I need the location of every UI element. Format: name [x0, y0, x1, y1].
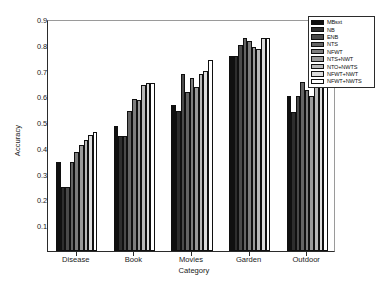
y-tick-label: 0.5	[7, 119, 47, 128]
legend-swatch	[311, 64, 324, 69]
x-axis-label: Category	[0, 266, 388, 275]
y-tick-label: 0.2	[7, 196, 47, 205]
legend-item: NFWT+NWT	[311, 70, 372, 77]
legend-swatch	[311, 20, 324, 25]
legend-item: NTS	[311, 41, 372, 48]
y-tick-label: 0.4	[7, 144, 47, 153]
legend-item: NFWT	[311, 48, 372, 55]
legend-item: ENB	[311, 33, 372, 40]
x-tick-label-outdoor: Outdoor	[271, 255, 341, 264]
y-tick-label: 0.9	[7, 16, 47, 25]
bar	[93, 132, 98, 251]
legend-label: ENB	[327, 34, 338, 40]
legend-item: MBsxt	[311, 19, 372, 26]
y-tick-label: 0.3	[7, 170, 47, 179]
legend-label: NFWT+NWT	[327, 71, 358, 77]
y-tick-label: 0.1	[7, 222, 47, 231]
bar-group-disease	[56, 21, 97, 251]
legend-item: NB	[311, 26, 372, 33]
bar-group-book	[114, 21, 155, 251]
y-axis-label: Accuracy	[13, 106, 22, 176]
legend-item: NTO+NWTS	[311, 63, 372, 70]
bar-group-garden	[229, 21, 270, 251]
legend-label: NTO+NWTS	[327, 64, 357, 70]
legend-label: NTS+NWT	[327, 56, 353, 62]
legend-label: NFWT	[327, 49, 343, 55]
bars-layer	[48, 21, 334, 251]
bar	[266, 38, 271, 251]
legend-swatch	[311, 79, 324, 84]
bar	[150, 83, 155, 251]
legend-label: NB	[327, 27, 334, 33]
bar-chart-figure: Accuracy 0.10.20.30.40.50.60.70.80.9 Dis…	[0, 0, 388, 292]
bar	[208, 60, 213, 251]
legend-swatch	[311, 49, 324, 54]
legend-label: NTS	[327, 41, 338, 47]
y-tick-label: 0.7	[7, 67, 47, 76]
legend-swatch	[311, 71, 324, 76]
bar-group-movies	[171, 21, 212, 251]
plot-area	[47, 20, 335, 252]
legend-label: NFWT+NWTS	[327, 78, 362, 84]
bar	[323, 65, 328, 251]
legend-swatch	[311, 27, 324, 32]
legend: MBsxtNBENBNTSNFWTNTS+NWTNTO+NWTSNFWT+NWT…	[308, 16, 375, 88]
legend-item: NTS+NWT	[311, 56, 372, 63]
legend-swatch	[311, 34, 324, 39]
legend-item: NFWT+NWTS	[311, 78, 372, 85]
legend-swatch	[311, 42, 324, 47]
y-tick-label: 0.8	[7, 41, 47, 50]
legend-swatch	[311, 56, 324, 61]
y-tick-label: 0.6	[7, 93, 47, 102]
legend-label: MBsxt	[327, 19, 342, 25]
